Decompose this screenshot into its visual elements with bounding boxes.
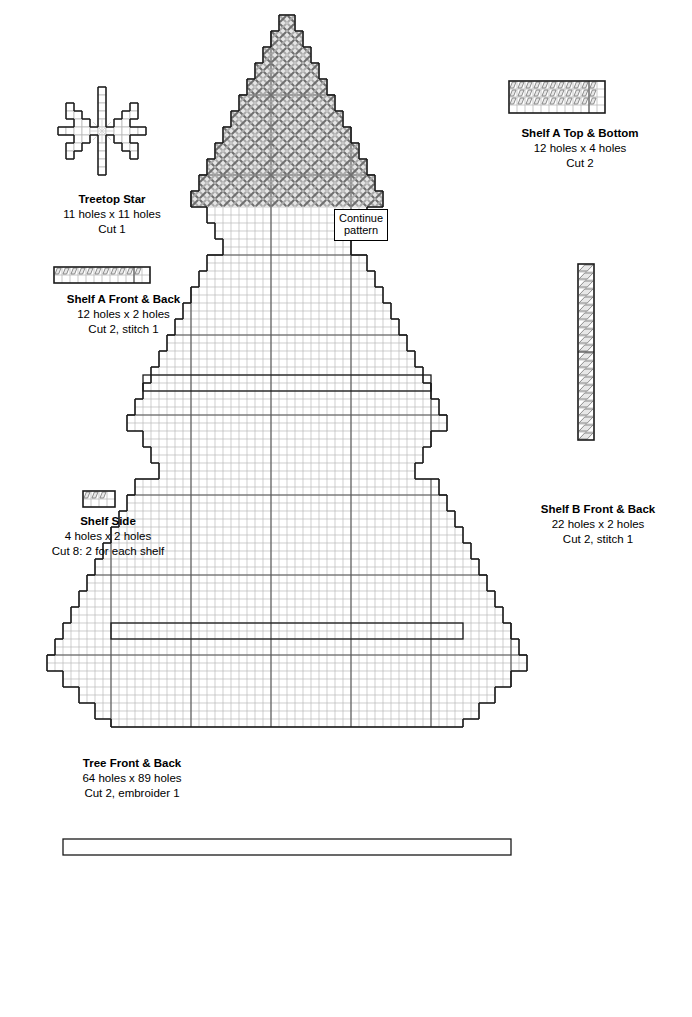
shelf-a-front-back-cut: Cut 2, stitch 1	[26, 322, 221, 337]
shelf-side-chart	[82, 490, 116, 508]
treetop-star-caption: Treetop Star 11 holes x 11 holes Cut 1	[32, 192, 192, 238]
shelf-b-front-back-title: Shelf B Front & Back	[508, 502, 688, 517]
shelf-a-front-back-caption: Shelf A Front & Back 12 holes x 2 holes …	[26, 292, 221, 338]
treetop-star-title: Treetop Star	[32, 192, 192, 207]
shelf-b-front-back-chart	[577, 263, 595, 441]
continue-pattern-line2: pattern	[344, 224, 378, 236]
treetop-star-size: 11 holes x 11 holes	[32, 207, 192, 222]
tree-front-back-cut: Cut 2, embroider 1	[42, 786, 222, 801]
shelf-side-size: 4 holes x 2 holes	[28, 529, 188, 544]
shelf-a-top-bottom-size: 12 holes x 4 holes	[490, 141, 670, 156]
shelf-a-top-bottom-caption: Shelf A Top & Bottom 12 holes x 4 holes …	[490, 126, 670, 172]
shelf-side-title: Shelf Side	[28, 514, 188, 529]
shelf-side-caption: Shelf Side 4 holes x 2 holes Cut 8: 2 fo…	[28, 514, 188, 560]
shelf-b-front-back-cut: Cut 2, stitch 1	[508, 532, 688, 547]
treetop-star-chart	[57, 86, 147, 176]
shelf-a-top-bottom-cut: Cut 2	[490, 156, 670, 171]
shelf-a-top-bottom-chart	[508, 80, 606, 114]
shelf-a-front-back-size: 12 holes x 2 holes	[26, 307, 221, 322]
shelf-side-cut: Cut 8: 2 for each shelf	[28, 544, 188, 559]
tree-front-back-size: 64 holes x 89 holes	[42, 771, 222, 786]
continue-pattern-line1: Continue	[339, 212, 383, 224]
continue-pattern-note: Continue pattern	[334, 209, 388, 241]
tree-front-back-caption: Tree Front & Back 64 holes x 89 holes Cu…	[42, 756, 222, 802]
shelf-a-front-back-title: Shelf A Front & Back	[26, 292, 221, 307]
tree-front-back-title: Tree Front & Back	[42, 756, 222, 771]
shelf-b-front-back-size: 22 holes x 2 holes	[508, 517, 688, 532]
treetop-star-cut: Cut 1	[32, 222, 192, 237]
shelf-b-front-back-caption: Shelf B Front & Back 22 holes x 2 holes …	[508, 502, 688, 548]
shelf-a-front-back-chart	[53, 266, 151, 284]
shelf-a-top-bottom-title: Shelf A Top & Bottom	[490, 126, 670, 141]
